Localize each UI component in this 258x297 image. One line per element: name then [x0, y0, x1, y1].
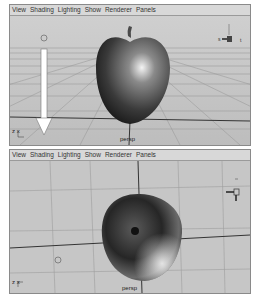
axis-indicator: z x	[12, 128, 20, 134]
menu-view[interactable]: View	[12, 5, 26, 15]
top-viewport-panel: View Shading Lighting Show Renderer Pane…	[9, 4, 251, 146]
perspective-viewport[interactable]: t s z x persp	[10, 16, 250, 145]
menu-show[interactable]: Show	[85, 150, 101, 160]
menu-renderer[interactable]: Renderer	[105, 150, 132, 160]
axis-indicator: z x	[12, 279, 20, 285]
menu-shading[interactable]: Shading	[30, 150, 54, 160]
menu-view[interactable]: View	[12, 150, 26, 160]
menu-shading[interactable]: Shading	[30, 5, 54, 15]
camera-label: persp	[122, 285, 137, 291]
grid-and-apple-top	[10, 161, 250, 293]
grid-and-apple-side: t s	[10, 16, 250, 145]
camera-label: persp	[120, 136, 135, 142]
menu-show[interactable]: Show	[85, 5, 101, 15]
menu-renderer[interactable]: Renderer	[105, 5, 132, 15]
viewport-menubar: View Shading Lighting Show Renderer Pane…	[10, 5, 250, 16]
menu-panels[interactable]: Panels	[136, 150, 156, 160]
menu-lighting[interactable]: Lighting	[58, 5, 81, 15]
bottom-viewport-panel: View Shading Lighting Show Renderer Pane…	[9, 149, 251, 294]
menu-lighting[interactable]: Lighting	[58, 150, 81, 160]
perspective-viewport-top[interactable]: z x persp	[10, 161, 250, 293]
menu-panels[interactable]: Panels	[136, 5, 156, 15]
viewport-menubar: View Shading Lighting Show Renderer Pane…	[10, 150, 250, 161]
